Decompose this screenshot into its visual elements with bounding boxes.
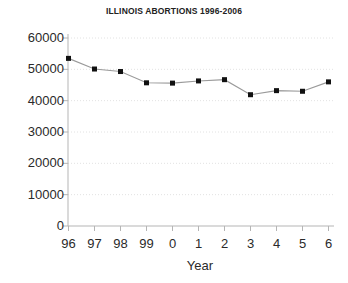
x-axis-tick-labels: 969798990123456 [0,0,348,283]
x-axis-tick-label: 6 [314,237,344,250]
chart-figure: ILLINOIS ABORTIONS 1996-2006 01000020000… [0,0,348,283]
x-axis-title: Year [68,258,332,273]
